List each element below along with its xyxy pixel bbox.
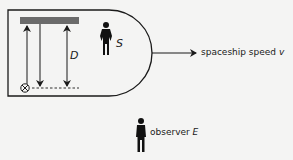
velocity-label: spaceship speed v	[201, 48, 284, 57]
observer-variable: E	[193, 127, 199, 137]
velocity-variable: v	[279, 47, 284, 57]
distance-label: D	[70, 50, 78, 61]
observer-text: observer	[150, 127, 193, 137]
frame-s-label: S	[116, 38, 123, 49]
observer-label: observer E	[150, 128, 198, 137]
mirror	[20, 17, 79, 24]
light-clock-diagram	[0, 0, 293, 160]
observer-e-icon	[136, 118, 146, 152]
person-s-icon	[100, 22, 112, 55]
light-source-icon	[21, 84, 29, 92]
velocity-text: spaceship speed	[201, 47, 279, 57]
